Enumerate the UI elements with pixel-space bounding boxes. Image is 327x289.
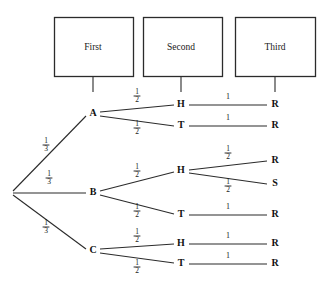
fraction-denominator: 2: [135, 95, 139, 104]
fraction-numerator: 1: [135, 258, 139, 267]
tree-edge-BH-to-BHR: [189, 161, 267, 170]
edge-probability-value: 1: [226, 231, 230, 240]
edge-label-CH-CHR: 1: [226, 231, 230, 240]
fraction-numerator: 1: [44, 218, 48, 227]
tree-node-A: A: [89, 107, 97, 118]
fraction-numerator: 1: [135, 162, 139, 171]
stage-header-label: Second: [167, 42, 195, 52]
tree-node-CH: H: [177, 237, 185, 248]
stage-header-first: First: [55, 18, 134, 77]
fraction-numerator: 1: [226, 144, 230, 153]
edge-label-AH-AHR: 1: [226, 92, 230, 101]
edge-probability-value: 1: [226, 202, 230, 211]
tree-node-BHS: S: [272, 177, 278, 188]
fraction-denominator: 3: [44, 144, 48, 153]
edge-label-C-CT: 12: [134, 258, 141, 276]
edge-label-B-BH: 12: [134, 162, 141, 180]
stage-header-second: Second: [144, 18, 223, 77]
tree-node-B: B: [90, 186, 97, 197]
edge-label-root-C: 13: [43, 218, 50, 236]
tree-canvas: FirstSecondThirdABCHTHTHTRRRSRRR13131312…: [0, 0, 327, 289]
tree-node-ATR: R: [271, 119, 279, 130]
fraction-denominator: 2: [135, 235, 139, 244]
tree-node-AT: T: [178, 119, 185, 130]
probability-tree-diagram: FirstSecondThirdABCHTHTHTRRRSRRR13131312…: [0, 0, 327, 289]
fraction-denominator: 3: [44, 226, 48, 235]
fraction-denominator: 2: [226, 185, 230, 194]
tree-edge-A-to-AH: [100, 105, 174, 112]
tree-node-CHR: R: [271, 237, 279, 248]
fraction-denominator: 2: [135, 127, 139, 136]
edge-probability-value: 1: [226, 251, 230, 260]
stage-header-third: Third: [236, 18, 316, 77]
stage-header-label: First: [84, 42, 102, 52]
fraction-numerator: 1: [135, 87, 139, 96]
edge-label-AT-ATR: 1: [226, 113, 230, 122]
tree-node-CTR: R: [271, 257, 279, 268]
fraction-denominator: 2: [135, 210, 139, 219]
edge-label-A-AH: 12: [134, 87, 141, 105]
tree-node-BT: T: [178, 208, 185, 219]
tree-node-C: C: [89, 244, 96, 255]
fraction-numerator: 1: [226, 177, 230, 186]
tree-node-AH: H: [177, 98, 185, 109]
fraction-denominator: 2: [135, 266, 139, 275]
edge-probability-value: 1: [226, 113, 230, 122]
tree-edge-root-to-C: [13, 195, 86, 249]
fraction-denominator: 3: [47, 177, 51, 186]
fraction-denominator: 2: [135, 170, 139, 179]
edge-probability-value: 1: [226, 92, 230, 101]
edge-label-C-CH: 12: [134, 227, 141, 245]
stage-header-label: Third: [264, 42, 285, 52]
tree-node-AHR: R: [271, 98, 279, 109]
tree-node-BH: H: [177, 164, 185, 175]
edge-label-root-B: 13: [46, 169, 53, 187]
fraction-numerator: 1: [47, 169, 51, 178]
edge-label-BT-BTR: 1: [226, 202, 230, 211]
tree-node-BTR: R: [271, 208, 279, 219]
fraction-numerator: 1: [135, 119, 139, 128]
edge-label-B-BT: 12: [134, 202, 141, 220]
edge-label-root-A: 13: [43, 136, 50, 154]
tree-node-CT: T: [178, 257, 185, 268]
edge-label-BH-BHR: 12: [225, 144, 232, 162]
fraction-numerator: 1: [44, 136, 48, 145]
fraction-numerator: 1: [135, 202, 139, 211]
edge-label-CT-CTR: 1: [226, 251, 230, 260]
tree-node-BHR: R: [271, 154, 279, 165]
tree-edge-C-to-CH: [100, 244, 174, 249]
fraction-numerator: 1: [135, 227, 139, 236]
fraction-denominator: 2: [226, 152, 230, 161]
